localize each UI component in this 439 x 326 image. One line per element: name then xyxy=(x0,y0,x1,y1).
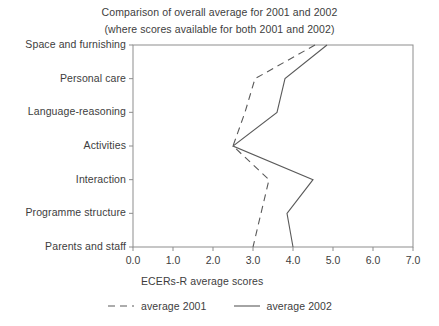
x-tick-label-6.0: 6.0 xyxy=(353,254,393,266)
x-axis-ticks xyxy=(133,247,413,251)
legend-label-average-2002: average 2002 xyxy=(267,300,332,312)
x-axis-title: ECERs-R average scores xyxy=(141,275,263,287)
y-axis-label-language-reasoning: Language-reasoning xyxy=(28,105,126,117)
chart-legend: average 2001 average 2002 xyxy=(0,300,439,312)
plot-frame xyxy=(133,45,413,247)
y-axis-label-interaction: Interaction xyxy=(76,173,126,185)
x-tick-label-4.0: 4.0 xyxy=(273,254,313,266)
x-tick-label-0.0: 0.0 xyxy=(113,254,153,266)
x-tick-label-3.0: 3.0 xyxy=(233,254,273,266)
legend-swatch-solid-icon xyxy=(233,301,261,311)
legend-label-average-2001: average 2001 xyxy=(141,300,206,312)
y-axis-label-programme-structure: Programme structure xyxy=(25,206,126,218)
x-tick-label-2.0: 2.0 xyxy=(193,254,233,266)
legend-swatch-dashed-icon xyxy=(107,301,135,311)
data-line-average-2001 xyxy=(233,45,315,247)
y-axis-label-parents-and-staff: Parents and staff xyxy=(45,240,126,252)
y-axis-label-space-and-furnishing: Space and furnishing xyxy=(25,38,126,50)
y-axis-label-activities: Activities xyxy=(84,139,126,151)
y-axis-label-personal-care: Personal care xyxy=(60,72,126,84)
y-axis-ticks xyxy=(129,45,133,247)
x-tick-label-5.0: 5.0 xyxy=(313,254,353,266)
x-tick-label-1.0: 1.0 xyxy=(153,254,193,266)
legend-item-average-2001: average 2001 xyxy=(107,300,206,312)
x-tick-label-7.0: 7.0 xyxy=(393,254,433,266)
data-series-layer xyxy=(233,45,327,247)
chart-container: Comparison of overall average for 2001 a… xyxy=(0,0,439,326)
legend-item-average-2002: average 2002 xyxy=(233,300,332,312)
data-line-average-2002 xyxy=(233,45,327,247)
